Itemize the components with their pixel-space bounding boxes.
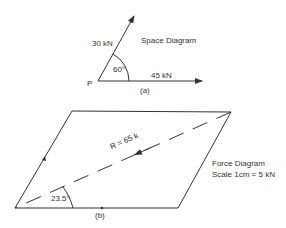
caption-b: (b) [95,212,105,220]
diagram-canvas [0,0,286,228]
resultant-dashed-line [15,112,231,208]
force-30kn-label: 30 kN [92,40,113,48]
scale-label: Scale 1cm = 5 kN [212,171,275,179]
point-p-label: P [87,80,92,88]
angle-60-label: 60° [113,66,125,74]
caption-a: (a) [140,87,150,95]
resultant-arrow-icon [135,148,150,155]
force-diagram-title: Force Diagram [212,160,265,168]
bottom-side-marker-icon [101,207,104,210]
space-diagram-title: Space Diagram [141,37,196,45]
force-diagram [15,111,231,209]
angle-23-label: 23.5° [51,195,70,203]
force-45kn-label: 45 kN [151,72,172,80]
